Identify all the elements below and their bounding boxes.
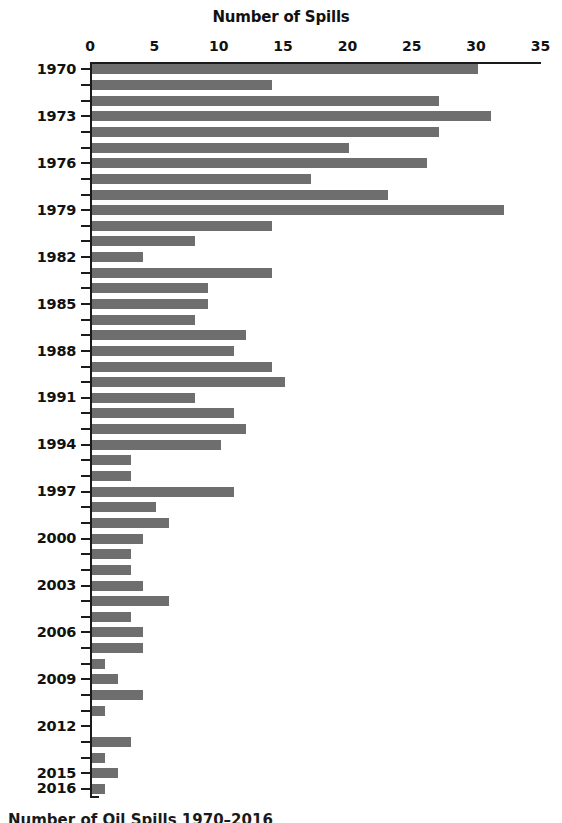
bar-1972 (92, 96, 439, 106)
bar-row (0, 641, 562, 657)
y-axis-tick (81, 287, 91, 289)
y-axis-tick (81, 412, 91, 414)
y-tick-label-1976: 1976 (0, 155, 76, 171)
bar-2006 (92, 627, 143, 637)
y-axis-tick (81, 209, 91, 211)
y-axis-tick (81, 240, 91, 242)
y-axis-tick (81, 491, 91, 493)
bar-1980 (92, 221, 272, 231)
x-tick-label-5: 5 (149, 38, 159, 54)
bar-row (0, 359, 562, 375)
bar-1985 (92, 299, 208, 309)
x-tick-label-25: 25 (402, 38, 421, 54)
bar-row (0, 422, 562, 438)
bar-1999 (92, 518, 169, 528)
oil-spills-bar-chart: Number of Spills 05101520253035 19701973… (0, 0, 562, 823)
y-tick-label-2016: 2016 (0, 780, 76, 796)
bar-1989 (92, 362, 272, 372)
bar-row (0, 547, 562, 563)
y-tick-label-2000: 2000 (0, 530, 76, 546)
bar-2003 (92, 581, 143, 591)
bar-row (0, 500, 562, 516)
bar-row (0, 234, 562, 250)
y-axis-tick (81, 553, 91, 555)
y-axis-tick (81, 68, 91, 70)
y-tick-label-1982: 1982 (0, 249, 76, 265)
bar-1993 (92, 424, 246, 434)
y-axis-tick (81, 631, 91, 633)
y-axis-tick (81, 522, 91, 524)
bar-row: 1991 (0, 390, 562, 406)
chart-title: Number of Spills (0, 8, 562, 26)
y-axis-tick (81, 757, 91, 759)
bar-row: 1994 (0, 437, 562, 453)
y-axis-tick (81, 272, 91, 274)
y-tick-label-2012: 2012 (0, 718, 76, 734)
bar-1988 (92, 346, 234, 356)
bar-row (0, 516, 562, 532)
bar-2001 (92, 549, 131, 559)
y-axis-tick (81, 115, 91, 117)
bar-row: 1976 (0, 156, 562, 172)
bar-1996 (92, 471, 131, 481)
bar-row (0, 703, 562, 719)
y-axis-tick (81, 162, 91, 164)
y-axis-tick (81, 710, 91, 712)
bar-row: 1988 (0, 344, 562, 360)
bar-row (0, 750, 562, 766)
bar-1970 (92, 64, 478, 74)
x-tick-label-15: 15 (273, 38, 292, 54)
y-tick-label-1997: 1997 (0, 483, 76, 499)
bar-1976 (92, 158, 427, 168)
bar-row (0, 609, 562, 625)
bar-row (0, 171, 562, 187)
bar-1982 (92, 252, 143, 262)
bar-2008 (92, 659, 105, 669)
bar-row: 2012 (0, 719, 562, 735)
bar-1973 (92, 111, 491, 121)
bar-row (0, 469, 562, 485)
y-tick-label-2015: 2015 (0, 765, 76, 781)
y-axis-tick (81, 475, 91, 477)
y-axis-tick (81, 788, 91, 790)
y-axis-tick (81, 366, 91, 368)
bar-2005 (92, 612, 131, 622)
bar-2013 (92, 737, 131, 747)
y-axis-tick (81, 725, 91, 727)
y-tick-label-1970: 1970 (0, 61, 76, 77)
bar-1974 (92, 127, 439, 137)
bar-row (0, 125, 562, 141)
bar-1978 (92, 190, 388, 200)
y-axis-tick (81, 600, 91, 602)
bar-1975 (92, 143, 349, 153)
y-tick-label-1988: 1988 (0, 343, 76, 359)
figure-caption: Number of Oil Spills 1970–2016 (8, 812, 428, 823)
bar-1987 (92, 330, 246, 340)
bar-1990 (92, 377, 285, 387)
y-axis-tick (81, 663, 91, 665)
bar-row (0, 375, 562, 391)
bar-row: 1973 (0, 109, 562, 125)
bar-row (0, 140, 562, 156)
y-axis-tick (81, 147, 91, 149)
bar-1986 (92, 315, 195, 325)
bar-row: 1979 (0, 203, 562, 219)
y-axis-tick (81, 506, 91, 508)
bar-row (0, 93, 562, 109)
bar-row (0, 281, 562, 297)
bar-row: 2000 (0, 531, 562, 547)
y-axis-tick (81, 678, 91, 680)
y-tick-label-2003: 2003 (0, 577, 76, 593)
bar-row (0, 594, 562, 610)
bar-row (0, 453, 562, 469)
y-axis-tick (81, 131, 91, 133)
bar-2014 (92, 753, 105, 763)
bar-row: 2016 (0, 781, 562, 797)
bar-row (0, 656, 562, 672)
bar-row (0, 265, 562, 281)
bar-1998 (92, 502, 156, 512)
bar-row (0, 187, 562, 203)
y-axis-tick (81, 741, 91, 743)
y-axis-tick (81, 772, 91, 774)
bar-row: 2015 (0, 766, 562, 782)
